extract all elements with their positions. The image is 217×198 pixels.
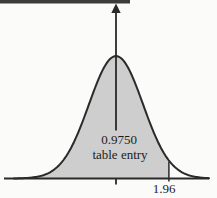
normal-curve-figure: 0.9750 table entry 1.96 bbox=[0, 0, 217, 198]
top-edge-bar bbox=[0, 0, 130, 4]
table-entry-label: table entry bbox=[92, 147, 148, 162]
shaded-area-value-label: 0.9750 bbox=[101, 132, 137, 147]
arrowhead-up-icon bbox=[111, 4, 120, 14]
x-tick-label-196: 1.96 bbox=[153, 181, 176, 196]
normal-curve-chart: 0.9750 table entry 1.96 bbox=[0, 0, 217, 198]
